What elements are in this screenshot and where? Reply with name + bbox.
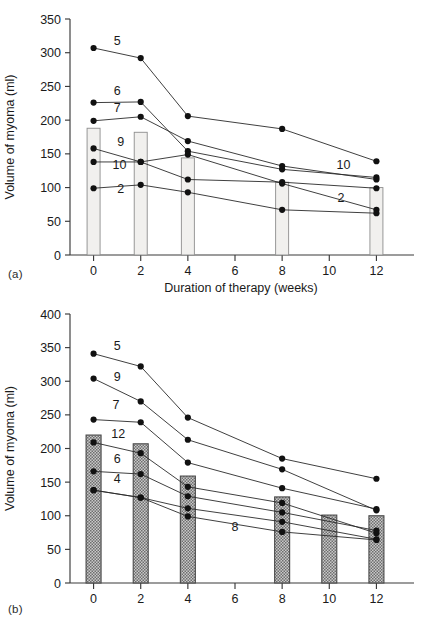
y-tick-label: 400 [40,308,61,322]
chart-panel-a: 050100150200250300350024681012Duration o… [0,0,442,312]
data-point [138,450,144,456]
series-label: 9 [117,135,124,149]
data-point [279,500,285,506]
data-point [90,416,96,422]
x-tick-label: 10 [322,264,336,278]
x-tick-label: 6 [232,264,239,278]
data-point [185,189,191,195]
data-point [279,126,285,132]
data-point [185,505,191,511]
y-tick-label: 200 [40,442,61,456]
data-point [90,100,96,106]
data-point [185,437,191,443]
data-point [185,493,191,499]
y-tick-label: 250 [40,80,61,94]
y-tick-label: 300 [40,46,61,60]
x-tick-label: 2 [137,264,144,278]
data-point [373,185,379,191]
data-point [185,414,191,420]
x-tick-label: 8 [279,264,286,278]
data-point [373,506,379,512]
series-label: 9 [114,370,121,384]
mean-bar [276,182,289,255]
series-label: 5 [114,34,121,48]
mean-bar [86,435,101,583]
x-axis-title: Duration of therapy (weeks) [164,281,318,295]
data-point [279,509,285,515]
y-tick-label: 250 [40,408,61,422]
x-tick-label: 2 [137,592,144,605]
x-tick-label: 12 [369,592,383,605]
x-tick-label: 0 [90,592,97,605]
mean-bar [322,515,337,583]
series-label: 7 [112,398,119,412]
data-point [373,176,379,182]
series-label: 4 [114,472,121,486]
series-label: 6 [114,84,121,98]
data-point [279,529,285,535]
data-point [138,159,144,165]
data-point [90,468,96,474]
x-tick-label: 8 [279,592,286,605]
x-tick-label: 0 [90,264,97,278]
data-point [279,519,285,525]
data-point [90,351,96,357]
series-label: 7 [114,101,121,115]
data-point [138,99,144,105]
data-point [138,471,144,477]
y-tick-label: 150 [40,476,61,490]
chart-a-canvas: 050100150200250300350024681012Duration o… [0,0,442,312]
mean-bar [134,132,147,255]
series-label: 10 [113,158,127,172]
data-point [90,118,96,124]
mean-bar [370,188,383,255]
data-point [138,363,144,369]
data-point [279,455,285,461]
data-point [138,398,144,404]
data-point [185,138,191,144]
y-tick-label: 100 [40,509,61,523]
data-point [185,484,191,490]
data-point [373,476,379,482]
data-point [185,460,191,466]
data-point [90,375,96,381]
y-tick-label: 350 [40,341,61,355]
x-tick-label: 4 [184,592,191,605]
series-label: 6 [114,452,121,466]
x-tick-label: 4 [184,264,191,278]
series-label: 10 [336,158,350,172]
series-label: 2 [338,191,345,205]
data-point [279,163,285,169]
data-point [138,419,144,425]
y-tick-label: 200 [40,114,61,128]
data-point [279,207,285,213]
panel-b-label: (b) [8,603,23,615]
x-tick-label: 12 [369,264,383,278]
y-tick-label: 300 [40,375,61,389]
chart-panel-b: 050100150200250300350400024681012Duratio… [0,305,442,633]
series-label: 2 [117,182,124,196]
data-point [279,466,285,472]
data-point [185,513,191,519]
data-point [90,185,96,191]
y-axis-title: Volume of myoma (ml) [3,386,17,511]
data-point [185,113,191,119]
y-tick-label: 50 [47,543,61,557]
data-point [373,537,379,543]
panel-a-label: (a) [8,268,23,280]
y-axis-title: Volume of myoma (ml) [3,74,17,199]
x-tick-label: 6 [232,592,239,605]
y-tick-label: 350 [40,13,61,27]
data-point [185,176,191,182]
y-tick-label: 150 [40,147,61,161]
mean-bar [369,516,384,583]
series-label: 12 [111,427,125,441]
data-point [373,527,379,533]
series-label: 8 [232,520,239,534]
data-point [138,114,144,120]
data-point [279,485,285,491]
y-tick-label: 0 [54,577,61,591]
data-point [373,158,379,164]
data-point [373,210,379,216]
data-point [138,55,144,61]
